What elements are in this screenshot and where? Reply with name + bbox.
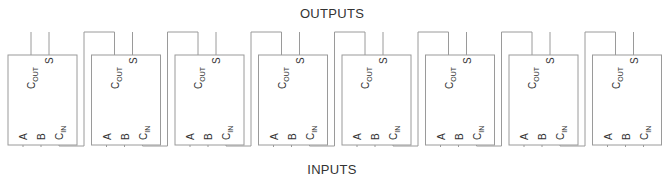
input-a-label: A <box>102 133 113 140</box>
sum-label: S <box>462 57 473 64</box>
input-a-label: A <box>519 133 530 140</box>
sum-label: S <box>378 57 389 64</box>
sum-label: S <box>128 57 139 64</box>
input-a-label: A <box>436 133 447 140</box>
ripple-carry-adder-diagram: OUTPUTS INPUTS COUTSABCINCOUTSABCINCOUTS… <box>0 0 664 183</box>
input-b-label: B <box>203 133 214 140</box>
input-b-label: B <box>287 133 298 140</box>
input-a-label: A <box>185 133 196 140</box>
input-b-label: B <box>120 133 131 140</box>
sum-label: S <box>295 57 306 64</box>
input-b-label: B <box>370 133 381 140</box>
input-a-label: A <box>18 133 29 140</box>
full-adder-chain: COUTSABCINCOUTSABCINCOUTSABCINCOUTSABCIN… <box>8 32 662 147</box>
inputs-label: INPUTS <box>307 162 356 177</box>
sum-label: S <box>211 57 222 64</box>
input-b-label: B <box>36 133 47 140</box>
input-b-label: B <box>621 133 632 140</box>
sum-label: S <box>44 57 55 64</box>
outputs-label: OUTPUTS <box>300 6 364 21</box>
input-b-label: B <box>537 133 548 140</box>
sum-label: S <box>629 57 640 64</box>
input-a-label: A <box>269 133 280 140</box>
input-a-label: A <box>603 133 614 140</box>
input-b-label: B <box>454 133 465 140</box>
input-a-label: A <box>352 133 363 140</box>
sum-label: S <box>545 57 556 64</box>
full-adder: COUTSABCIN <box>593 32 662 147</box>
